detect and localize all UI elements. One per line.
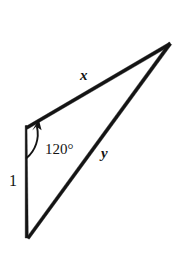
side-one-line [25, 126, 28, 239]
angle-label-120: 120° [45, 142, 74, 157]
side-label-one: 1 [9, 173, 17, 189]
angle-arc [27, 127, 38, 158]
side-x-line [26, 42, 171, 129]
geometry-figure: x y 1 120° [0, 0, 179, 274]
side-label-x: x [80, 68, 88, 83]
triangle-drawing [0, 0, 179, 274]
side-label-y: y [101, 146, 108, 161]
